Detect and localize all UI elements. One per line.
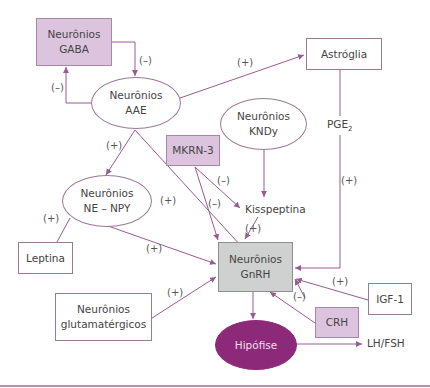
node-aae-line2: AAE bbox=[125, 103, 146, 118]
node-ne-npy: Neurônios NE – NPY bbox=[62, 175, 152, 227]
node-astroglia: Astróglia bbox=[306, 38, 382, 70]
sign-mkrn3-kiss: (–) bbox=[217, 175, 230, 186]
node-gnrh-line2: GnRH bbox=[241, 267, 271, 282]
node-kndy-line1: Neurônios bbox=[237, 109, 290, 124]
node-gaba: Neurônios GABA bbox=[36, 18, 112, 66]
node-nenpy-line1: Neurônios bbox=[81, 186, 134, 201]
sign-aae-astroglia: (+) bbox=[237, 57, 253, 68]
node-hipofise: Hipófise bbox=[215, 320, 297, 370]
node-gaba-line1: Neurônios bbox=[48, 27, 101, 42]
sign-kiss-gnrh: (+) bbox=[245, 223, 261, 234]
node-glut-line1: Neurônios bbox=[77, 302, 130, 317]
node-leptina: Leptina bbox=[18, 242, 73, 274]
node-crh: CRH bbox=[315, 307, 359, 338]
pge2-base: PGE bbox=[327, 118, 348, 130]
sign-pge2-gnrh: (+) bbox=[341, 175, 357, 186]
node-gnrh: Neurônios GnRH bbox=[218, 242, 293, 292]
node-kisspeptina: Kisspeptina bbox=[245, 203, 306, 215]
sign-aae-nenpy: (+) bbox=[106, 140, 122, 151]
bottom-rule bbox=[0, 385, 430, 387]
sign-crh-gnrh: (–) bbox=[293, 291, 306, 302]
node-igf1-label: IGF-1 bbox=[376, 292, 404, 307]
sign-glut-gnrh: (+) bbox=[167, 287, 183, 298]
sign-aae-gaba: (–) bbox=[51, 82, 64, 93]
sign-leptina: (+) bbox=[43, 213, 59, 224]
node-crh-label: CRH bbox=[326, 315, 349, 330]
node-glutamatergicos: Neurônios glutamatérgicos bbox=[55, 293, 152, 341]
node-kndy-line2: KNDy bbox=[249, 124, 278, 139]
sign-igf1-gnrh: (+) bbox=[332, 276, 348, 287]
sign-aae-gnrh: (+) bbox=[160, 195, 176, 206]
node-aae-line1: Neurônios bbox=[110, 88, 163, 103]
node-astroglia-label: Astróglia bbox=[321, 47, 367, 62]
node-hipofise-label: Hipófise bbox=[235, 338, 277, 353]
node-gnrh-line1: Neurônios bbox=[229, 252, 282, 267]
node-kndy: Neurônios KNDy bbox=[220, 98, 307, 150]
sign-nenpy-gnrh: (+) bbox=[146, 243, 162, 254]
node-mkrn3: MKRN-3 bbox=[166, 135, 220, 166]
node-mkrn3-label: MKRN-3 bbox=[172, 143, 214, 158]
sign-mkrn3-gnrh: (–) bbox=[208, 198, 221, 209]
node-aae: Neurônios AAE bbox=[91, 77, 181, 129]
node-glut-line2: glutamatérgicos bbox=[61, 317, 146, 332]
label-pge2: PGE2 bbox=[327, 116, 353, 135]
node-nenpy-line2: NE – NPY bbox=[84, 201, 131, 216]
node-lhfsh: LH/FSH bbox=[367, 337, 405, 349]
node-igf1: IGF-1 bbox=[368, 283, 412, 315]
node-leptina-label: Leptina bbox=[26, 251, 65, 266]
node-gaba-line2: GABA bbox=[59, 42, 89, 57]
pge2-sub: 2 bbox=[348, 125, 352, 133]
sign-gaba-aae: (–) bbox=[139, 55, 152, 66]
